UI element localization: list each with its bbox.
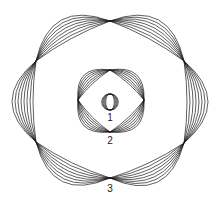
figure-3-arc	[36, 21, 110, 61]
figure-3-arc	[110, 143, 184, 178]
figure-3-arc	[110, 143, 184, 178]
figure-3-arc	[184, 61, 199, 143]
figure-3-arc	[110, 143, 184, 178]
figure-3-arc	[36, 15, 110, 61]
figure-3-arc	[21, 61, 36, 142]
figure-3-arc	[110, 21, 184, 61]
figure-3-arc	[36, 142, 110, 178]
arc-families	[12, 15, 208, 186]
figure-3-arc	[110, 21, 184, 61]
figure-3-arc	[33, 61, 36, 142]
figure-3-arc	[36, 142, 110, 178]
figure-3-arc	[110, 15, 184, 61]
figure-3-arc	[110, 21, 184, 61]
figure-3-arc	[36, 142, 110, 178]
figure-3-arc	[110, 143, 184, 178]
figure-3-arc	[36, 21, 110, 61]
label-3: 3	[107, 183, 113, 194]
label-1: 1	[107, 112, 113, 123]
figure-3-arc	[36, 142, 110, 178]
figure-3-arc	[36, 142, 110, 181]
figure-3-arc	[184, 61, 187, 143]
figure-3-arc	[36, 21, 110, 61]
figure-labels: 1 2 3	[107, 112, 113, 194]
label-2: 2	[107, 135, 113, 146]
nested-arc-diagram: 1 2 3	[0, 0, 218, 205]
